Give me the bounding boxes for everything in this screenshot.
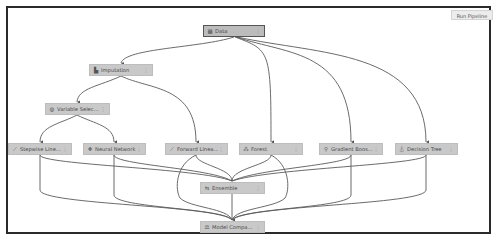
node-menu-icon[interactable]: ⋮ (293, 146, 299, 152)
gradient-boosting-icon: ⚲ (323, 146, 329, 152)
node-menu-icon[interactable]: ⋮ (255, 28, 261, 34)
node-forward-linear[interactable]: ⟋ Forward Linea... ⋮ (165, 143, 228, 155)
node-decision-tree[interactable]: ⏃ Decision Tree ⋮ (395, 143, 458, 155)
node-imputation[interactable]: ▙ Imputation ⋮ (89, 64, 153, 76)
node-label: Decision Tree (407, 146, 448, 152)
node-data[interactable]: ▦ Data ⋮ (203, 25, 265, 37)
model-comparison-icon: ⚖ (204, 224, 210, 230)
node-menu-icon[interactable]: ⋮ (218, 146, 224, 152)
node-variable-selection[interactable]: ◍ Variable Selec... ⋮ (45, 103, 110, 115)
node-label: Stepwise Line... (20, 146, 62, 152)
node-menu-icon[interactable]: ⋮ (255, 185, 261, 191)
node-label: Model Compa... (212, 224, 255, 230)
table-icon: ▦ (207, 28, 213, 34)
ensemble-icon: ⇆ (204, 185, 210, 191)
node-menu-icon[interactable]: ⋮ (62, 146, 68, 152)
node-menu-icon[interactable]: ⋮ (373, 146, 379, 152)
line-chart-icon: ⟋ (12, 146, 18, 152)
forest-icon: ⁂ (243, 146, 249, 152)
node-menu-icon[interactable]: ⋮ (136, 146, 142, 152)
node-label: Forest (251, 146, 293, 152)
node-label: Imputation (101, 67, 143, 73)
node-gradient-boosting[interactable]: ⚲ Gradient Boos... ⋮ (319, 143, 383, 155)
node-ensemble[interactable]: ⇆ Ensemble ⋮ (200, 182, 265, 194)
decision-tree-icon: ⏃ (399, 146, 405, 152)
node-label: Data (215, 28, 255, 34)
node-forest[interactable]: ⁂ Forest ⋮ (239, 143, 303, 155)
node-neural-network[interactable]: ✥ Neural Network ⋮ (83, 143, 146, 155)
node-menu-icon[interactable]: ⋮ (255, 224, 261, 230)
run-pipeline-button[interactable]: Run Pipeline (451, 10, 493, 20)
neural-network-icon: ✥ (87, 146, 93, 152)
node-label: Variable Selec... (57, 106, 100, 112)
line-chart-icon: ⟋ (169, 146, 175, 152)
pipeline-canvas[interactable] (6, 6, 491, 234)
variable-selection-icon: ◍ (49, 106, 55, 112)
node-menu-icon[interactable]: ⋮ (100, 106, 106, 112)
node-menu-icon[interactable]: ⋮ (448, 146, 454, 152)
node-label: Neural Network (95, 146, 136, 152)
node-label: Ensemble (212, 185, 255, 191)
node-model-comparison[interactable]: ⚖ Model Compa... ⋮ (200, 221, 265, 233)
imputation-icon: ▙ (93, 67, 99, 73)
node-stepwise-linear[interactable]: ⟋ Stepwise Line... ⋮ (8, 143, 72, 155)
node-menu-icon[interactable]: ⋮ (143, 67, 149, 73)
node-label: Forward Linea... (177, 146, 218, 152)
node-label: Gradient Boos... (331, 146, 373, 152)
